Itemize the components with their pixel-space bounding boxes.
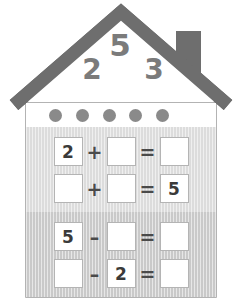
equation-operator: – bbox=[83, 263, 107, 285]
equation-answer-box[interactable] bbox=[107, 174, 136, 203]
equation-given-value: 5 bbox=[160, 174, 189, 203]
equation-row-subtraction-2: –2= bbox=[26, 256, 216, 291]
equation-row-addition-2: +=5 bbox=[26, 171, 216, 206]
equation-operator: = bbox=[136, 226, 160, 248]
counter-dot-row bbox=[49, 108, 169, 122]
counter-dot bbox=[49, 109, 62, 122]
equation-row-addition-1: 2+= bbox=[26, 134, 216, 169]
equation-operator: + bbox=[83, 178, 107, 200]
equation-operator: + bbox=[83, 141, 107, 163]
equation-operator: = bbox=[136, 178, 160, 200]
roof-number-part-left: 2 bbox=[74, 56, 110, 84]
counter-dot bbox=[129, 109, 142, 122]
equation-given-value: 2 bbox=[54, 137, 83, 166]
equation-operator: = bbox=[136, 263, 160, 285]
counter-dot bbox=[103, 109, 116, 122]
equation-operator: = bbox=[136, 141, 160, 163]
number-bond-house-worksheet: 5 2 3 2+= +=5 5–= –2= bbox=[0, 0, 241, 302]
equation-given-value: 5 bbox=[54, 222, 83, 251]
equation-answer-box[interactable] bbox=[107, 137, 136, 166]
equation-answer-box[interactable] bbox=[54, 174, 83, 203]
equation-answer-box[interactable] bbox=[107, 222, 136, 251]
counter-dot bbox=[156, 109, 169, 122]
equation-answer-box[interactable] bbox=[54, 259, 83, 288]
equation-row-subtraction-1: 5–= bbox=[26, 219, 216, 254]
equation-given-value: 2 bbox=[107, 259, 136, 288]
roof-number-part-right: 3 bbox=[136, 56, 172, 84]
equation-answer-box[interactable] bbox=[160, 137, 189, 166]
counter-dot bbox=[76, 109, 89, 122]
addition-panel: 2+= +=5 bbox=[26, 127, 216, 212]
equation-operator: – bbox=[83, 226, 107, 248]
equation-answer-box[interactable] bbox=[160, 259, 189, 288]
subtraction-panel: 5–= –2= bbox=[26, 212, 216, 297]
equation-answer-box[interactable] bbox=[160, 222, 189, 251]
